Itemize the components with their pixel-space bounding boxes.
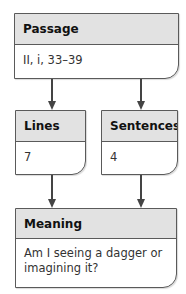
arrowhead-lines-meaning [48,199,56,208]
lines-node: Lines 7 [15,110,86,175]
arrow-sentences-meaning [140,175,142,200]
arrow-passage-sentences [140,79,142,102]
sentences-title: Sentences [102,111,177,142]
passage-value: II, i, 33–39 [15,45,178,74]
lines-value: 7 [16,142,85,171]
meaning-node: Meaning Am I seeing a dagger or imaginin… [15,208,177,288]
arrow-passage-lines [51,79,53,102]
arrowhead-passage-lines [48,101,56,110]
meaning-title: Meaning [16,209,176,239]
passage-node: Passage II, i, 33–39 [14,13,179,79]
lines-title: Lines [16,111,85,142]
arrow-lines-meaning [51,175,53,200]
meaning-value: Am I seeing a dagger or imagining it? [16,239,176,282]
sentences-value: 4 [102,142,177,171]
sentences-node: Sentences 4 [101,110,178,175]
arrowhead-sentences-meaning [137,199,145,208]
arrowhead-passage-sentences [137,101,145,110]
passage-title: Passage [15,14,178,45]
